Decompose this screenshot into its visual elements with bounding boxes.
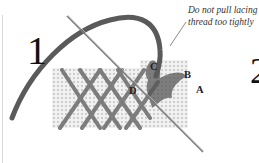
step-number-2: 2 [250,53,259,89]
caption-line-2: thread too tightly [188,16,257,28]
label-b: B [184,70,191,81]
step-number-1: 1 [27,31,47,71]
label-d: D [129,86,137,97]
label-c: C [150,62,158,73]
caption-line-1: Do not pull lacing [188,4,257,16]
caption-leader [170,22,186,46]
label-a: A [196,85,204,96]
instruction-caption: Do not pull lacing thread too tightly [188,4,257,28]
